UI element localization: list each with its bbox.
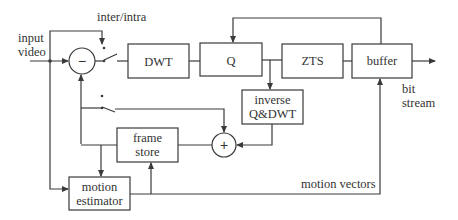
buffer-feedback-path xyxy=(233,18,381,44)
motion-estimator-label-line2: estimator xyxy=(76,194,123,208)
input-video-label-line2: video xyxy=(18,45,46,59)
encoder-diagram: input video inter/intra − DWT Q ZTS buff… xyxy=(0,0,458,220)
buffer-label: buffer xyxy=(367,54,398,68)
frame-store-label-line2: store xyxy=(135,145,160,159)
frame-store-label-line1: frame xyxy=(133,131,163,145)
input-to-estimator xyxy=(50,61,68,189)
q-label: Q xyxy=(226,54,235,68)
switch1-blade xyxy=(104,54,117,60)
adder-symbol: + xyxy=(220,137,228,153)
switch2-contact-top xyxy=(101,95,104,98)
inverse-qdwt-label-line2: Q&DWT xyxy=(249,107,297,121)
input-video-label-line1: input xyxy=(18,31,44,45)
bit-stream-label-line2: stream xyxy=(402,96,436,110)
bit-stream-label-line1: bit xyxy=(402,82,416,96)
inverse-to-adder-arrow xyxy=(237,124,272,145)
switch2-blade xyxy=(102,107,115,112)
subtractor-symbol: − xyxy=(78,53,86,69)
inverse-qdwt-label-line1: inverse xyxy=(254,93,291,107)
motion-estimator-label-line1: motion xyxy=(82,180,118,194)
motion-vectors-label: motion vectors xyxy=(301,177,376,191)
dwt-label: DWT xyxy=(144,55,173,69)
inter-intra-label: inter/intra xyxy=(97,10,147,24)
switch1-contact-top xyxy=(103,47,106,50)
zts-label: ZTS xyxy=(301,54,323,68)
